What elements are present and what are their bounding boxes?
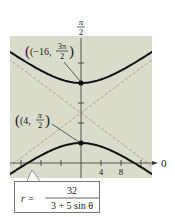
x-tick-label: 4: [99, 167, 104, 177]
vertex-point-upper: [78, 80, 83, 85]
equation-box: r = 32 3 + 5 sin θ: [14, 181, 100, 213]
vertex-point-lower: [78, 140, 83, 145]
equation: r = 32 3 + 5 sin θ: [15, 182, 101, 214]
vertex-upper-r: (−16,: [30, 46, 51, 58]
vertex-lower-theta-den: 2: [38, 120, 42, 130]
vertex-upper-theta-den: 2: [60, 51, 64, 61]
equation-denominator: 3 + 5 sin θ: [51, 200, 93, 211]
vertical-axis-label-denominator: 2: [79, 27, 84, 37]
paren-close: ): [45, 112, 50, 129]
paren-close: ): [69, 43, 74, 60]
equation-lhs: r =: [21, 193, 34, 204]
vertex-lower-theta-num: π: [38, 110, 43, 120]
vertical-axis-label-numerator: π: [79, 17, 84, 27]
equation-numerator: 32: [67, 185, 77, 196]
polar-axis-arrow-icon: [152, 161, 158, 165]
polar-axis-label: 0: [161, 157, 167, 169]
vertex-lower-r: (4,: [20, 115, 31, 127]
vertex-upper-theta-num: 3π: [58, 41, 67, 51]
x-tick-label: 8: [119, 167, 124, 177]
